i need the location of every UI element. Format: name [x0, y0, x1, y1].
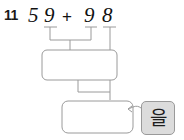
- connector-middle-to-bottom: [78, 80, 110, 92]
- korean-keyboard-icon: 을: [142, 102, 174, 134]
- bottom-answer-box: [62, 101, 133, 133]
- middle-answer-box: [42, 50, 117, 80]
- worksheet-page: 11 5 9 + 9 8 을: [0, 0, 184, 140]
- korean-input-tool-button[interactable]: 을: [141, 101, 175, 135]
- bracket-tens-group: [50, 27, 91, 40]
